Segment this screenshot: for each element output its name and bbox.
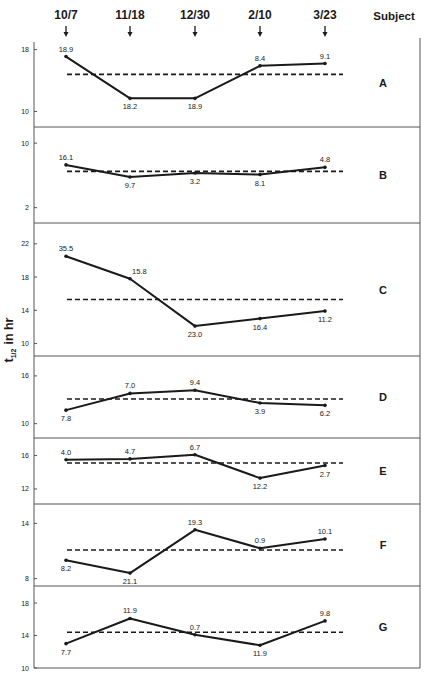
point-value-label: 18.9	[59, 45, 74, 54]
data-point-marker	[258, 476, 262, 480]
subject-letter: F	[380, 539, 387, 551]
y-axis-label: t1/2in hr	[2, 317, 17, 362]
point-value-label: 2.7	[320, 470, 330, 479]
date-label: 10/7	[54, 8, 78, 22]
y-tick-label: 10	[21, 140, 29, 147]
point-value-label: 8.4	[255, 54, 265, 63]
data-point-marker	[193, 97, 197, 101]
data-point-marker	[258, 64, 262, 68]
y-tick-label: 18	[21, 600, 29, 607]
data-point-marker	[193, 633, 197, 637]
half-life-series-line	[66, 256, 325, 326]
point-value-label: 7.7	[61, 648, 71, 657]
panel-subject-b: 21016.19.73.28.14.8B	[21, 140, 420, 223]
data-point-marker	[258, 173, 262, 177]
data-point-marker	[323, 619, 327, 623]
data-point-marker	[323, 62, 327, 66]
point-value-label: 11.9	[123, 606, 137, 615]
pharmacokinetic-half-life-chart: 10/711/1812/302/103/23Subject t1/2in hr …	[0, 0, 428, 677]
y-tick-label: 14	[21, 632, 29, 639]
y-tick-label: 22	[21, 240, 29, 247]
point-value-label: 18.9	[188, 102, 203, 111]
y-tick-label: 16	[21, 452, 29, 459]
subject-letter: G	[379, 621, 388, 633]
data-point-marker	[128, 457, 132, 461]
data-point-marker	[193, 324, 197, 328]
point-value-label: 9.8	[320, 609, 330, 618]
data-point-marker	[64, 642, 68, 646]
point-value-label: 9.4	[190, 378, 200, 387]
data-point-marker	[128, 175, 132, 179]
subject-letter: A	[379, 77, 387, 89]
date-label: 12/30	[180, 8, 210, 22]
date-marker: 10/7	[54, 8, 78, 37]
point-value-label: 9.1	[320, 52, 330, 61]
data-point-marker	[128, 277, 132, 281]
data-point-marker	[323, 537, 327, 541]
point-value-label: 16.1	[59, 153, 74, 162]
data-point-marker	[128, 617, 132, 621]
date-label: 2/10	[248, 8, 272, 22]
point-value-label: 11.9	[253, 649, 267, 658]
down-arrow-icon	[64, 26, 69, 37]
y-tick-label: 10	[21, 108, 29, 115]
point-value-label: 8.2	[61, 564, 71, 573]
date-marker: 2/10	[248, 8, 272, 37]
y-tick-label: 10	[21, 665, 29, 672]
data-point-marker	[193, 388, 197, 392]
point-value-label: 4.8	[320, 155, 330, 164]
subject-letter: D	[379, 391, 387, 403]
date-marker: 12/30	[180, 8, 210, 37]
point-value-label: 11.2	[318, 315, 332, 324]
point-value-label: 6.2	[320, 409, 330, 418]
point-value-label: 18.2	[123, 102, 138, 111]
point-value-label: 7.0	[125, 381, 135, 390]
y-tick-label: 10	[21, 420, 29, 427]
point-value-label: 4.0	[61, 448, 71, 457]
point-value-label: 35.5	[59, 244, 74, 253]
y-tick-label: 2	[25, 204, 29, 211]
y-tick-label: 18	[21, 274, 29, 281]
data-point-marker	[64, 254, 68, 258]
y-tick-label: 18	[21, 46, 29, 53]
panel-subject-f: 8148.221.119.30.910.1F	[21, 518, 420, 586]
data-point-marker	[258, 317, 262, 321]
half-life-series-line	[66, 57, 325, 99]
y-tick-label: 8	[25, 575, 29, 582]
point-value-label: 0.9	[255, 536, 265, 545]
panel-subject-e: 12164.04.76.712.22.7E	[21, 443, 420, 504]
y-axis-title: t1/2in hr	[2, 317, 17, 362]
data-point-marker	[128, 392, 132, 396]
data-point-marker	[323, 309, 327, 313]
y-tick-label: 12	[21, 485, 29, 492]
y-tick-label: 16	[21, 372, 29, 379]
y-tick-label: 14	[21, 307, 29, 314]
point-value-label: 4.7	[125, 447, 135, 456]
data-point-marker	[193, 528, 197, 532]
data-point-marker	[64, 458, 68, 462]
data-point-marker	[64, 408, 68, 412]
point-value-label: 8.1	[255, 179, 265, 188]
date-marker: 11/18	[115, 8, 145, 37]
down-arrow-icon	[193, 26, 198, 37]
point-value-label: 12.2	[253, 482, 268, 491]
subject-letter: B	[379, 169, 387, 181]
date-label: 11/18	[115, 8, 145, 22]
down-arrow-icon	[258, 26, 263, 37]
panel-subject-c: 1014182235.515.823.016.411.2C	[21, 240, 420, 356]
down-arrow-icon	[128, 26, 133, 37]
point-value-label: 21.1	[123, 577, 138, 586]
point-value-label: 19.3	[188, 518, 203, 527]
data-point-marker	[128, 571, 132, 575]
data-point-marker	[193, 171, 197, 175]
down-arrow-icon	[323, 26, 328, 37]
point-value-label: 10.1	[318, 527, 333, 536]
point-value-label: 0.7	[190, 623, 200, 632]
point-value-label: 23.0	[188, 330, 203, 339]
y-tick-label: 10	[21, 340, 29, 347]
panel-subject-g: 1014187.711.90.711.99.8G	[21, 600, 420, 672]
legend-header-subject: Subject	[373, 10, 415, 22]
half-life-series-line	[66, 530, 325, 573]
panel-subject-a: 101818.918.218.98.49.1A	[21, 45, 420, 127]
point-value-label: 9.7	[125, 181, 135, 190]
